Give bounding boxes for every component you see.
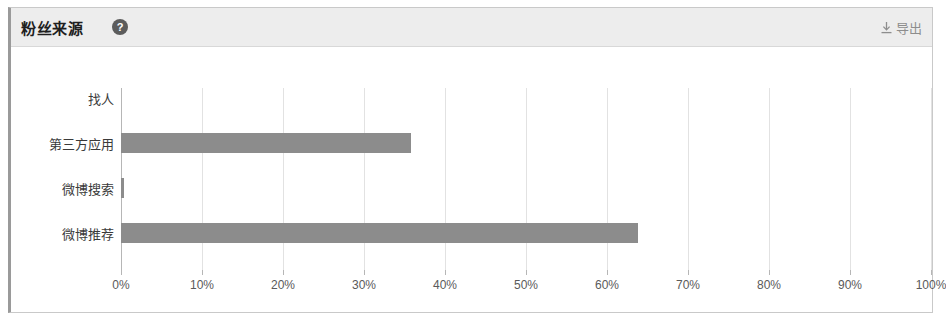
download-icon bbox=[880, 21, 893, 35]
page-title: 粉丝来源 bbox=[21, 17, 83, 38]
x-axis-tick-label: 60% bbox=[595, 278, 619, 292]
bar[interactable] bbox=[121, 133, 411, 153]
x-axis-tick bbox=[526, 270, 527, 275]
export-button-label: 导出 bbox=[896, 18, 922, 37]
export-button[interactable]: 导出 bbox=[880, 18, 922, 37]
x-axis-tick bbox=[931, 270, 932, 275]
bar[interactable] bbox=[121, 223, 638, 243]
x-axis-tick-label: 20% bbox=[271, 278, 295, 292]
gridline bbox=[850, 88, 851, 270]
bar[interactable] bbox=[121, 178, 124, 198]
x-axis-tick bbox=[364, 270, 365, 275]
x-axis-tick bbox=[850, 270, 851, 275]
x-axis-tick-label: 10% bbox=[190, 278, 214, 292]
x-axis-tick bbox=[121, 270, 122, 275]
chart-plot-area: 0%10%20%30%40%50%60%70%80%90%100%找人第三方应用… bbox=[11, 48, 932, 313]
y-axis-tick-label: 找人 bbox=[88, 89, 114, 108]
x-axis-tick-label: 70% bbox=[676, 278, 700, 292]
question-mark-circle-icon[interactable]: ? bbox=[112, 19, 128, 35]
x-axis-tick bbox=[445, 270, 446, 275]
x-axis-tick bbox=[202, 270, 203, 275]
y-axis-tick-label: 第三方应用 bbox=[49, 134, 114, 153]
x-axis-tick-label: 80% bbox=[757, 278, 781, 292]
x-axis-tick bbox=[607, 270, 608, 275]
x-axis-tick-label: 30% bbox=[352, 278, 376, 292]
y-axis-tick-label: 微博搜索 bbox=[62, 179, 114, 198]
x-axis-tick bbox=[769, 270, 770, 275]
gridline bbox=[688, 88, 689, 270]
card-header: 粉丝来源 ? 导出 bbox=[11, 8, 932, 47]
x-axis-tick bbox=[688, 270, 689, 275]
y-axis-tick-label: 微博推荐 bbox=[62, 224, 114, 243]
x-axis-tick-label: 40% bbox=[433, 278, 457, 292]
x-axis-tick-label: 90% bbox=[838, 278, 862, 292]
x-axis-tick-label: 100% bbox=[916, 278, 946, 292]
x-axis-tick bbox=[283, 270, 284, 275]
gridline bbox=[931, 88, 932, 270]
gridline bbox=[769, 88, 770, 270]
fan-source-card: 粉丝来源 ? 导出 0%10%20%30%40%50%60%70%80%90%1… bbox=[8, 7, 933, 313]
x-axis-tick-label: 0% bbox=[112, 278, 129, 292]
x-axis-tick-label: 50% bbox=[514, 278, 538, 292]
